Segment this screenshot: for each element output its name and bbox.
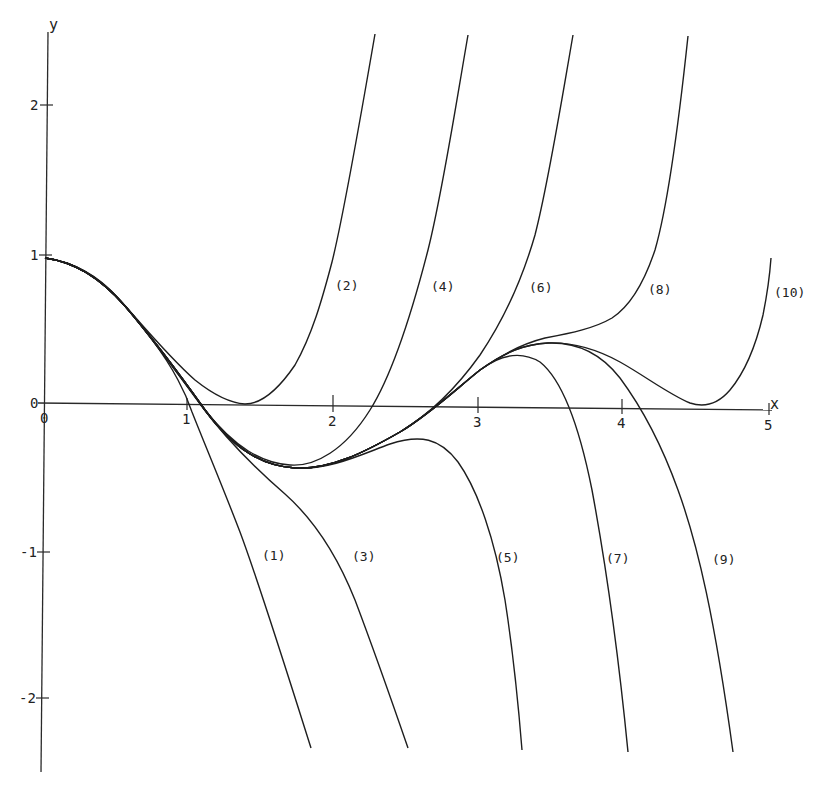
curves [45,34,771,752]
x-tick-label-2: 2 [328,413,336,429]
curve-label-1: (1) [262,548,285,563]
y-tick-labels: 2 1 0 -1 -2 [19,97,38,706]
curve-3 [45,258,408,748]
y-axis [41,32,48,772]
curve-8 [45,36,688,468]
curve-label-4: (4) [431,279,454,294]
curve-label-8: (8) [648,282,671,297]
x-tick-label-3: 3 [473,414,481,430]
x-tick-label-0: 0 [40,410,48,426]
x-tick-label-4: 4 [617,415,625,431]
y-tick-label-2: 2 [30,97,38,113]
curve-4 [45,35,468,465]
taylor-curves-chart: y x 0 1 2 3 4 5 2 1 0 -1 -2 [0,0,813,797]
x-tick-label-5: 5 [764,417,772,433]
x-axis [38,403,772,410]
curve-label-6: (6) [529,280,552,295]
x-axis-label: x [770,395,779,413]
y-tick-label-neg1: -1 [20,544,37,560]
curve-5 [45,258,522,750]
x-tick-labels: 0 1 2 3 4 5 [40,410,772,433]
curve-7 [45,258,628,752]
curve-label-9: (9) [712,552,735,567]
curve-labels: (1) (2) (3) (4) (5) (6) (7) (8) (9) (10) [262,278,805,567]
y-tick-label-neg2: -2 [19,690,36,706]
curve-label-2: (2) [335,278,358,293]
y-tick-label-1: 1 [30,247,38,263]
curve-1 [45,258,311,748]
y-tick-label-0: 0 [30,395,38,411]
curve-label-5: (5) [496,550,519,565]
curve-label-10: (10) [774,285,805,300]
y-axis-label: y [49,16,58,34]
curve-label-3: (3) [352,549,375,564]
curve-label-7: (7) [606,551,629,566]
curve-2 [45,34,375,404]
x-tick-label-1: 1 [182,411,190,427]
